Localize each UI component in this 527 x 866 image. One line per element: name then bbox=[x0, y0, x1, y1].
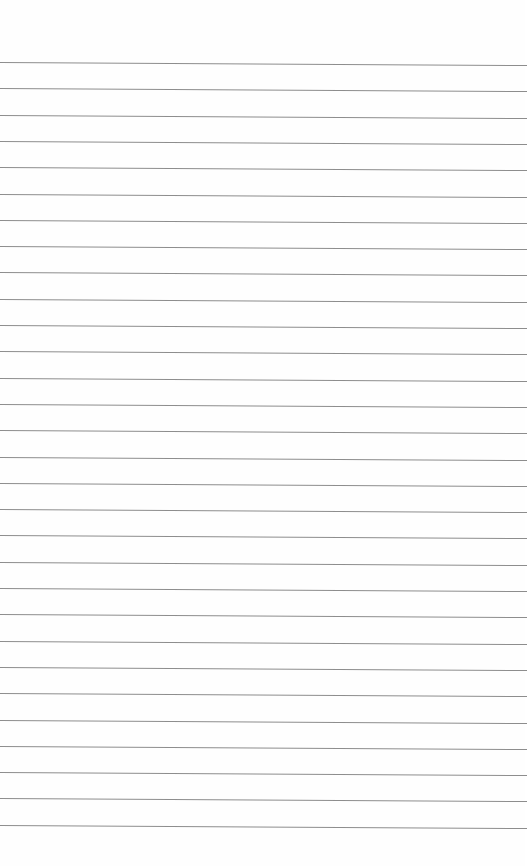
ruled-line bbox=[0, 457, 527, 461]
ruled-line bbox=[0, 115, 527, 119]
ruled-line bbox=[0, 509, 527, 513]
ruled-line bbox=[0, 430, 527, 434]
ruled-line bbox=[0, 351, 527, 355]
ruled-line bbox=[0, 272, 527, 276]
ruled-line bbox=[0, 88, 527, 92]
ruled-line bbox=[0, 825, 527, 829]
ruled-line bbox=[0, 167, 527, 171]
ruled-line bbox=[0, 588, 527, 592]
ruled-line bbox=[0, 693, 527, 697]
ruled-line bbox=[0, 535, 527, 539]
ruled-line bbox=[0, 772, 527, 776]
ruled-line bbox=[0, 614, 527, 618]
ruled-line bbox=[0, 246, 527, 250]
ruled-line bbox=[0, 404, 527, 408]
ruled-line bbox=[0, 220, 527, 224]
ruled-line bbox=[0, 798, 527, 802]
ruled-line bbox=[0, 378, 527, 382]
ruled-line bbox=[0, 667, 527, 671]
ruled-line bbox=[0, 720, 527, 724]
ruled-line bbox=[0, 483, 527, 487]
ruled-line bbox=[0, 299, 527, 303]
ruled-line bbox=[0, 562, 527, 566]
ruled-line bbox=[0, 641, 527, 645]
ruled-line bbox=[0, 141, 527, 145]
ruled-line bbox=[0, 746, 527, 750]
ruled-line bbox=[0, 62, 527, 66]
ruled-line bbox=[0, 194, 527, 198]
ruled-line bbox=[0, 325, 527, 329]
